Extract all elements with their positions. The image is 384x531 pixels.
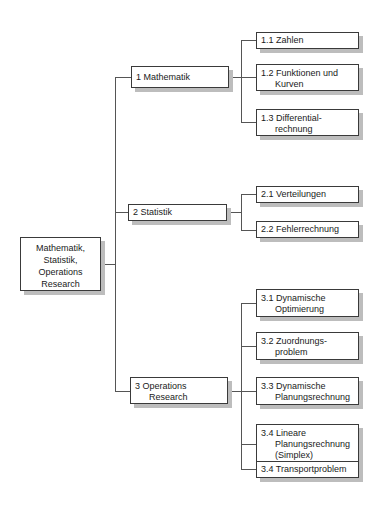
node-label-line-2: rechnung — [261, 124, 354, 135]
node-statistik: 2 Statistik — [128, 204, 227, 221]
node-3-1-dynamische-optimierung: 3.1 Dynamische Optimierung — [256, 289, 359, 317]
node-label-line-2: Planungsrechnung — [261, 392, 354, 403]
root-line-4: Research — [24, 278, 97, 290]
connector-1-2 — [241, 77, 256, 78]
node-3-4-lineare-planungsrechnung: 3.4 Lineare Planungsrechnung (Simplex) — [256, 424, 359, 464]
root-node: Mathematik, Statistik, Operations Resear… — [20, 237, 101, 291]
root-connector — [101, 264, 115, 265]
node-3-2-zuordnungsproblem: 3.2 Zuordnungs- problem — [256, 332, 359, 360]
connector-branch-3 — [115, 391, 130, 392]
node-1-1-zahlen: 1.1 Zahlen — [256, 32, 359, 49]
node-2-1-verteilungen: 2.1 Verteilungen — [256, 186, 359, 203]
node-operations-research: 3 Operations Research — [130, 377, 228, 404]
connector-1-3 — [241, 122, 256, 123]
connector-3-3 — [241, 391, 256, 392]
branch-3-out — [228, 391, 241, 392]
node-label-line-2: problem — [261, 347, 354, 358]
branch-2-out — [227, 212, 241, 213]
node-label-line-1: 3.4 Lineare — [261, 428, 354, 439]
node-label: 2.1 Verteilungen — [261, 189, 354, 200]
node-label: 1.1 Zahlen — [261, 35, 354, 46]
node-label: 2.2 Fehlerrechnung — [261, 224, 354, 235]
root-line-2: Statistik, — [24, 254, 97, 266]
node-label-line-2: Planungsrechnung — [261, 439, 354, 450]
node-label: 2 Statistik — [133, 207, 222, 218]
connector-branch-1 — [115, 77, 131, 78]
node-label-line-1: 3 Operations — [135, 381, 223, 392]
node-1-3-differentialrechnung: 1.3 Differential- rechnung — [256, 109, 359, 136]
node-label: 1 Mathematik — [136, 72, 224, 83]
node-mathematik: 1 Mathematik — [131, 66, 229, 88]
node-label-line-2: Optimierung — [261, 304, 354, 315]
branch-1-vertical — [241, 40, 242, 122]
root-line-1: Mathematik, — [24, 242, 97, 254]
node-1-2-funktionen: 1.2 Funktionen und Kurven — [256, 64, 359, 91]
node-label-line-1: 3.1 Dynamische — [261, 293, 354, 304]
node-label-line-1: 1.3 Differential- — [261, 113, 354, 124]
connector-3-4 — [241, 444, 256, 445]
branch-1-out — [229, 77, 241, 78]
node-label: 3.4 Transportproblem — [261, 464, 354, 475]
node-label-line-1: 3.2 Zuordnungs- — [261, 336, 354, 347]
connector-2-1 — [241, 194, 256, 195]
branch-2-vertical — [241, 194, 242, 230]
connector-3-1 — [241, 303, 256, 304]
node-3-5-transportproblem: 3.4 Transportproblem — [256, 461, 359, 478]
connector-2-2 — [241, 230, 256, 231]
node-label-line-3: (Simplex) — [261, 450, 354, 461]
connector-3-5 — [241, 469, 256, 470]
root-line-3: Operations — [24, 266, 97, 278]
connector-1-1 — [241, 40, 256, 41]
connector-branch-2 — [115, 212, 128, 213]
trunk-vertical — [115, 77, 116, 392]
connector-3-2 — [241, 346, 256, 347]
node-label-line-1: 1.2 Funktionen und — [261, 68, 354, 79]
node-label-line-2: Research — [135, 392, 223, 403]
node-2-2-fehlerrechnung: 2.2 Fehlerrechnung — [256, 221, 359, 238]
node-label-line-2: Kurven — [261, 79, 354, 90]
node-label-line-1: 3.3 Dynamische — [261, 381, 354, 392]
node-3-3-dynamische-planungsrechnung: 3.3 Dynamische Planungsrechnung — [256, 377, 359, 405]
